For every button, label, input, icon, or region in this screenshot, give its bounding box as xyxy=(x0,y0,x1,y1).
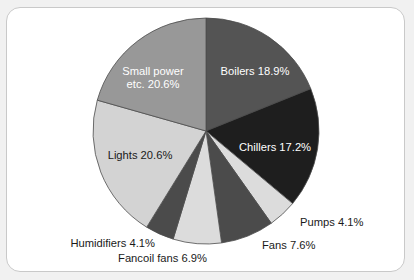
pie-label-line: Boilers 18.9% xyxy=(220,65,289,77)
pie-label-line: Pumps 4.1% xyxy=(300,216,363,228)
chart-card: Boilers 18.9%Chillers 17.2%Pumps 4.1%Fan… xyxy=(6,7,405,272)
pie-label-line: Chillers 17.2% xyxy=(239,141,311,153)
pie-label-fans: Fans 7.6% xyxy=(262,239,316,251)
pie-slices-group xyxy=(93,18,319,244)
pie-chart: Boilers 18.9%Chillers 17.2%Pumps 4.1%Fan… xyxy=(7,8,405,272)
pie-label-chillers: Chillers 17.2% xyxy=(239,141,311,153)
pie-label-fancoil-fans: Fancoil fans 6.9% xyxy=(118,252,207,264)
pie-label-humidifiers: Humidifiers 4.1% xyxy=(70,237,155,249)
pie-label-line: Fans 7.6% xyxy=(262,239,316,251)
pie-label-small-power-etc: Small poweretc. 20.6% xyxy=(122,64,184,89)
pie-label-line: Small power xyxy=(122,64,184,76)
pie-label-line: Fancoil fans 6.9% xyxy=(118,252,207,264)
pie-label-line: Lights 20.6% xyxy=(108,149,173,161)
figure-root: Boilers 18.9%Chillers 17.2%Pumps 4.1%Fan… xyxy=(0,0,414,280)
pie-label-pumps: Pumps 4.1% xyxy=(300,216,363,228)
pie-label-lights: Lights 20.6% xyxy=(108,149,173,161)
pie-label-line: etc. 20.6% xyxy=(127,77,180,89)
pie-label-boilers: Boilers 18.9% xyxy=(220,65,289,77)
pie-label-line: Humidifiers 4.1% xyxy=(70,237,155,249)
